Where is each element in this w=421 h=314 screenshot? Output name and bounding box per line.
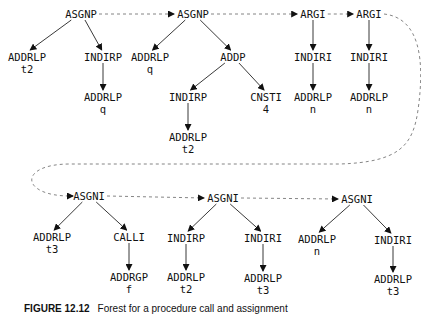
- tree-edge-arrow: [153, 20, 186, 50]
- node-operand: n: [298, 245, 336, 257]
- tree-node-indiri: INDIRI: [244, 232, 282, 244]
- sequence-link-arrow: [241, 198, 338, 199]
- tree-node-addrlp: ADDRLPt2: [8, 51, 46, 75]
- tree-edge-arrow: [230, 204, 260, 231]
- node-op: ARGI: [300, 8, 325, 20]
- tree-node-addrlp: ADDRLPt2: [169, 131, 207, 155]
- node-op: ADDRLP: [33, 231, 71, 243]
- node-op: ADDP: [220, 51, 245, 63]
- node-op: ADDRGP: [110, 271, 148, 283]
- tree-node-asgni: ASGNI: [73, 190, 105, 202]
- node-op: INDIRI: [244, 232, 282, 244]
- node-operand: t3: [33, 243, 71, 255]
- tree-edge-arrow: [85, 20, 102, 50]
- tree-node-addrlp: ADDRLPn: [350, 91, 388, 115]
- tree-node-argi: ARGI: [356, 8, 381, 20]
- node-operand: t2: [8, 63, 46, 75]
- tree-node-addrlp: ADDRLPt3: [33, 231, 71, 255]
- tree-edge-arrow: [188, 204, 216, 231]
- node-op: ASGNP: [177, 8, 209, 20]
- tree-node-addp: ADDP: [220, 51, 245, 63]
- node-operand: t2: [167, 283, 205, 295]
- node-operand: f: [110, 283, 148, 295]
- tree-edge-arrow: [30, 20, 71, 50]
- tree-node-addrlp: ADDRLPn: [298, 233, 336, 257]
- tree-node-asgni: ASGNI: [207, 192, 239, 204]
- figure-caption-text: Forest for a procedure call and assignme…: [98, 303, 288, 314]
- node-op: ADDRLP: [167, 271, 205, 283]
- node-op: ASGNI: [341, 193, 373, 205]
- node-op: INDIRP: [169, 91, 207, 103]
- node-op: CNSTI: [250, 91, 282, 103]
- tree-edge-arrow: [319, 205, 349, 232]
- node-operand: t2: [169, 143, 207, 155]
- node-op: ADDRLP: [84, 91, 122, 103]
- figure-label: FIGURE 12.12: [24, 303, 90, 314]
- tree-node-addrlp: ADDRLPt2: [167, 271, 205, 295]
- tree-node-addrgp: ADDRGPf: [110, 271, 148, 295]
- node-op: ADDRLP: [169, 131, 207, 143]
- node-operand: n: [350, 103, 388, 115]
- node-op: INDIRI: [294, 51, 332, 63]
- node-op: ADDRLP: [8, 51, 46, 63]
- node-op: INDIRP: [167, 232, 205, 244]
- figure-caption: FIGURE 12.12Forest for a procedure call …: [24, 303, 288, 314]
- node-op: ASGNP: [65, 8, 97, 20]
- node-operand: 4: [250, 103, 282, 115]
- tree-edge-arrow: [200, 20, 230, 50]
- node-op: INDIRI: [350, 51, 388, 63]
- node-operand: t3: [244, 284, 282, 296]
- node-operand: q: [84, 103, 122, 115]
- tree-node-addrlp: ADDRLPq: [84, 91, 122, 115]
- node-operand: q: [131, 63, 169, 75]
- node-op: ARGI: [356, 8, 381, 20]
- node-op: INDIRI: [374, 234, 412, 246]
- tree-node-indiri: INDIRI: [350, 51, 388, 63]
- node-op: ADDRLP: [350, 91, 388, 103]
- node-op: ADDRLP: [244, 272, 282, 284]
- tree-node-addrlp: ADDRLPq: [131, 51, 169, 75]
- node-op: ASGNI: [73, 190, 105, 202]
- tree-edge-arrow: [96, 202, 126, 230]
- node-operand: n: [294, 103, 332, 115]
- tree-node-asgnp: ASGNP: [65, 8, 97, 20]
- node-operand: t3: [374, 285, 412, 297]
- tree-edge-arrow: [363, 205, 390, 233]
- tree-node-indirp: INDIRP: [84, 51, 122, 63]
- node-op: ADDRLP: [294, 91, 332, 103]
- tree-node-indirp: INDIRP: [169, 91, 207, 103]
- node-op: ADDRLP: [131, 51, 169, 63]
- tree-edge-arrow: [191, 63, 225, 90]
- node-op: ADDRLP: [374, 273, 412, 285]
- node-op: ADDRLP: [298, 233, 336, 245]
- node-op: INDIRP: [84, 51, 122, 63]
- tree-node-addrlp: ADDRLPn: [294, 91, 332, 115]
- node-op: CALLI: [113, 231, 145, 243]
- sequence-link-arrow: [107, 196, 204, 198]
- tree-node-calli: CALLI: [113, 231, 145, 243]
- node-op: ASGNI: [207, 192, 239, 204]
- tree-node-indirp: INDIRP: [167, 232, 205, 244]
- tree-node-indiri: INDIRI: [294, 51, 332, 63]
- tree-node-argi: ARGI: [300, 8, 325, 20]
- tree-edge-arrow: [54, 202, 82, 230]
- tree-node-asgnp: ASGNP: [177, 8, 209, 20]
- tree-node-addrlp: ADDRLPt3: [244, 272, 282, 296]
- tree-edge-arrow: [239, 63, 264, 90]
- tree-node-cnsti: CNSTI4: [250, 91, 282, 115]
- tree-node-indiri: INDIRI: [374, 234, 412, 246]
- tree-node-asgni: ASGNI: [341, 193, 373, 205]
- tree-node-addrlp: ADDRLPt3: [374, 273, 412, 297]
